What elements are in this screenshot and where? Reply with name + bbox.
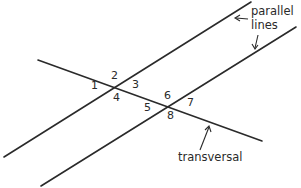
arrow-icon-parallel-lower: [252, 35, 258, 49]
parallel-lines-caption-line2: lines: [251, 20, 278, 32]
angle-label-2: 2: [111, 70, 118, 81]
parallel-lines-transversal-diagram: 1 2 3 4 5 6 7 8 parallel lines transvers…: [0, 0, 301, 188]
angle-label-3: 3: [132, 79, 139, 90]
arrow-icon-parallel-upper: [235, 15, 248, 21]
transversal-caption: transversal: [178, 152, 242, 164]
angle-label-8: 8: [167, 110, 174, 121]
angle-label-7: 7: [187, 97, 194, 108]
angle-label-4: 4: [113, 92, 120, 103]
angle-label-6: 6: [164, 90, 171, 101]
angle-label-5: 5: [144, 102, 151, 113]
parallel-lines-caption-line1: parallel: [251, 6, 294, 18]
parallel-line-upper: [4, 2, 251, 157]
arrow-icon-transversal: [200, 126, 211, 150]
angle-label-1: 1: [91, 80, 98, 91]
